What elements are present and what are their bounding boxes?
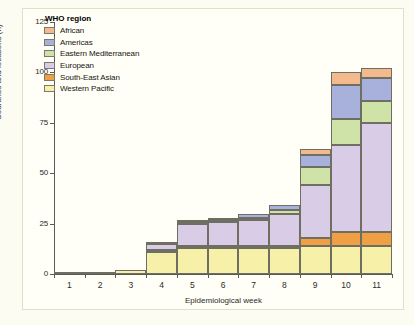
y-axis-tick-label: 25 (20, 219, 48, 228)
legend-item-label: Western Pacific (60, 84, 114, 93)
legend-item: European (44, 60, 139, 72)
legend-swatch-icon (44, 39, 55, 46)
legend-item: Eastern Mediterranean (44, 48, 139, 60)
bar-segment (361, 78, 392, 100)
bar-segment (208, 218, 239, 220)
bar-segment (177, 222, 208, 224)
bar-segment (208, 220, 239, 222)
legend-item: Americas (44, 37, 139, 49)
bar-stack (115, 270, 146, 274)
x-axis-line (54, 274, 393, 275)
x-axis-tick-label: 11 (364, 280, 390, 290)
bar-segment (146, 244, 177, 250)
bar-segment (300, 238, 331, 246)
bar-segment (300, 149, 331, 155)
legend-swatch-icon (44, 85, 55, 92)
x-axis-tick-label: 8 (271, 280, 297, 290)
bar-segment (146, 250, 177, 252)
y-axis-tick-label: 50 (20, 168, 48, 177)
legend-item-label: South-East Asian (60, 73, 120, 82)
bar-stack (300, 149, 331, 274)
bar-segment (331, 119, 362, 145)
legend-swatch-icon (44, 50, 55, 57)
bar-segment (361, 123, 392, 232)
bar-stack (361, 68, 392, 274)
bar-stack (208, 218, 239, 274)
bar-segment (331, 232, 362, 246)
bar-segment (269, 248, 300, 274)
x-axis-tick-label: 5 (179, 280, 205, 290)
bar-segment (146, 242, 177, 244)
legend-item: Western Pacific (44, 83, 139, 95)
y-axis-title: Countries and locations (n) (0, 24, 3, 120)
y-axis-tick-label: 75 (20, 118, 48, 127)
x-axis-tick (115, 274, 116, 278)
bar-segment (208, 246, 239, 248)
bar-segment (238, 220, 269, 246)
bar-segment (177, 224, 208, 246)
bar-segment (208, 248, 239, 274)
bar-stack (177, 220, 208, 274)
x-axis-tick (361, 274, 362, 278)
legend-item-label: European (60, 61, 94, 70)
bar-stack (238, 214, 269, 274)
x-axis-tick-label: 1 (56, 280, 82, 290)
x-axis-tick (238, 274, 239, 278)
bar-segment (238, 248, 269, 274)
legend-swatch-icon (44, 27, 55, 34)
x-axis-tick (54, 274, 55, 278)
y-axis-tick-label: 0 (20, 269, 48, 278)
x-axis-tick-label: 4 (149, 280, 175, 290)
figure-canvas: 0255075100125 1234567891011 Countries an… (0, 0, 414, 325)
legend-item: African (44, 25, 139, 37)
legend-swatch-icon (44, 74, 55, 81)
bar-segment (177, 220, 208, 222)
x-axis-tick-label: 9 (302, 280, 328, 290)
x-axis-tick (300, 274, 301, 278)
bar-segment (54, 272, 85, 274)
bar-segment (361, 232, 392, 246)
bar-segment (115, 270, 146, 274)
legend-item-label: Americas (60, 38, 93, 47)
x-axis-tick-label: 10 (333, 280, 359, 290)
bar-segment (146, 252, 177, 274)
bar-segment (300, 155, 331, 167)
x-axis-title: Epidemiological week (54, 296, 393, 305)
x-axis-tick (208, 274, 209, 278)
bar-segment (331, 246, 362, 274)
bar-segment (331, 145, 362, 232)
x-axis-tick-label: 6 (210, 280, 236, 290)
bar-segment (269, 214, 300, 246)
bar-segment (300, 185, 331, 237)
legend-item-label: African (60, 26, 84, 35)
legend-swatch-icon (44, 62, 55, 69)
bar-stack (146, 242, 177, 274)
bar-segment (269, 246, 300, 248)
bar-segment (85, 272, 116, 274)
x-axis-tick (331, 274, 332, 278)
bar-segment (331, 72, 362, 84)
bar-stack (85, 272, 116, 274)
bar-segment (177, 248, 208, 274)
bar-segment (361, 68, 392, 78)
bar-segment (269, 205, 300, 209)
x-axis-tick-label: 7 (241, 280, 267, 290)
legend-title: WHO region (45, 14, 139, 23)
bar-segment (238, 214, 269, 218)
legend-item-label: Eastern Mediterranean (60, 49, 139, 58)
x-axis-tick-label: 2 (87, 280, 113, 290)
x-axis-tick (177, 274, 178, 278)
bar-segment (361, 101, 392, 123)
x-axis-tick (392, 274, 393, 278)
x-axis-tick (146, 274, 147, 278)
legend-item: South-East Asian (44, 71, 139, 83)
bar-segment (361, 246, 392, 274)
bar-segment (177, 246, 208, 248)
bar-stack (54, 272, 85, 274)
bar-segment (208, 222, 239, 246)
bar-segment (331, 85, 362, 119)
bar-segment (269, 210, 300, 214)
bar-stack (331, 72, 362, 274)
x-axis-tick (269, 274, 270, 278)
bar-segment (300, 246, 331, 274)
